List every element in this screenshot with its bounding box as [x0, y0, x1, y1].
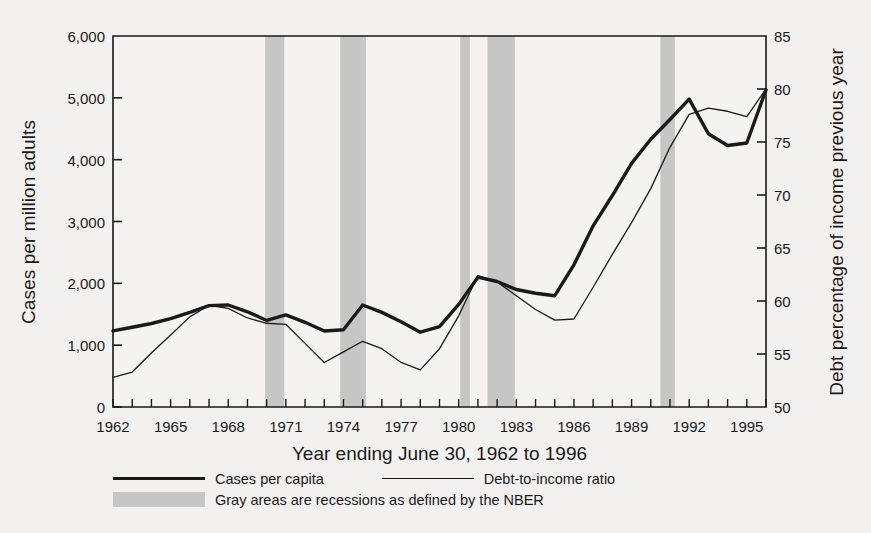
y-tick-label-right-60: 60	[774, 293, 791, 310]
y-tick-label-right-65: 65	[774, 240, 791, 257]
recession-band-4	[660, 36, 674, 407]
recession-band-2	[460, 36, 470, 407]
legend-row-lines: Cases per capita Debt-to-income ratio	[113, 468, 773, 489]
y-tick-label-left-6000: 6,000	[67, 28, 105, 45]
legend-gray-swatch-icon	[113, 492, 205, 507]
x-tick-label-1989: 1989	[615, 418, 648, 435]
y-tick-label-right-80: 80	[774, 81, 791, 98]
legend-row-recession: Gray areas are recessions as defined by …	[113, 489, 773, 510]
legend-thick-line-icon	[113, 477, 205, 480]
y-tick-label-left-2000: 2,000	[67, 275, 105, 292]
y-tick-label-right-50: 50	[774, 399, 791, 416]
x-axis-label: Year ending June 30, 1962 to 1996	[113, 443, 766, 465]
x-tick-label-1962: 1962	[96, 418, 129, 435]
x-tick-label-1971: 1971	[269, 418, 302, 435]
y-axis-label-left-text: Cases per million adults	[18, 119, 40, 323]
y-axis-label-right: Debt percentage of income previous year	[826, 36, 848, 407]
x-tick-label-1977: 1977	[384, 418, 417, 435]
legend-thin-line-icon	[382, 478, 474, 479]
y-tick-label-left-5000: 5,000	[67, 89, 105, 106]
y-axis-label-left: Cases per million adults	[18, 36, 40, 407]
x-tick-label-1983: 1983	[500, 418, 533, 435]
chart-figure: Cases per million adults Debt percentage…	[0, 0, 871, 533]
recession-band-3	[488, 36, 515, 407]
y-tick-label-left-4000: 4,000	[67, 151, 105, 168]
y-tick-label-right-55: 55	[774, 346, 791, 363]
legend-label-recession: Gray areas are recessions as defined by …	[215, 492, 544, 508]
y-tick-label-left-1000: 1,000	[67, 337, 105, 354]
y-tick-label-right-85: 85	[774, 28, 791, 45]
x-tick-label-1992: 1992	[672, 418, 705, 435]
x-tick-label-1974: 1974	[327, 418, 360, 435]
x-tick-label-1980: 1980	[442, 418, 475, 435]
y-tick-label-left-3000: 3,000	[67, 213, 105, 230]
legend-label-debt: Debt-to-income ratio	[484, 471, 615, 487]
y-tick-label-right-75: 75	[774, 134, 791, 151]
x-tick-label-1965: 1965	[154, 418, 187, 435]
chart-legend: Cases per capita Debt-to-income ratio Gr…	[113, 468, 773, 510]
y-tick-label-left-0: 0	[97, 399, 105, 416]
recession-band-0	[265, 36, 284, 407]
y-axis-label-right-text: Debt percentage of income previous year	[826, 48, 848, 395]
x-tick-label-1995: 1995	[730, 418, 763, 435]
x-tick-label-1986: 1986	[557, 418, 590, 435]
legend-label-cases: Cases per capita	[215, 471, 324, 487]
x-tick-label-1968: 1968	[212, 418, 245, 435]
y-tick-label-right-70: 70	[774, 187, 791, 204]
